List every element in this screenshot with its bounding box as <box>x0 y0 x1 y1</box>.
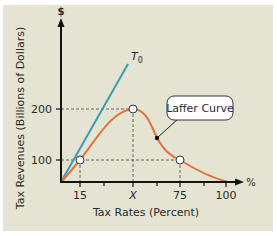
y-unit-label: $ <box>58 6 65 17</box>
x-axis-title: Tax Rates (Percent) <box>92 206 199 219</box>
x-tick-15: 15 <box>73 189 87 202</box>
callout-dot <box>155 136 159 140</box>
x-tick-75: 75 <box>173 189 187 202</box>
x-tick-100: 100 <box>216 189 237 202</box>
x-unit-label: % <box>246 177 256 188</box>
y-axis-arrow-icon <box>58 18 65 27</box>
y-tick-100: 100 <box>31 154 52 167</box>
laffer-label: Laffer Curve <box>166 102 234 115</box>
y-axis-title: Tax Revenues (Billions of Dollars) <box>14 27 27 210</box>
point-15-100 <box>76 156 84 164</box>
laffer-chart: Laffer Curve T0 $ % 200 100 15 X 75 100 … <box>0 0 277 236</box>
y-tick-200: 200 <box>31 103 52 116</box>
point-x-200 <box>129 105 137 113</box>
x-tick-x: X <box>128 189 137 202</box>
callout-leader <box>157 119 178 138</box>
x-axis-arrow-icon <box>235 179 244 186</box>
point-75-100 <box>176 156 184 164</box>
t0-label: T0 <box>131 50 143 65</box>
t0-line <box>61 64 128 182</box>
